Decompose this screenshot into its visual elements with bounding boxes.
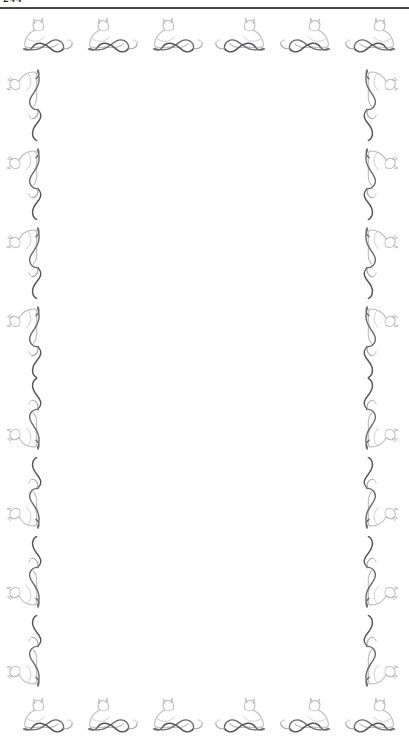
cat-ornament-icon <box>79 694 144 738</box>
page-body <box>56 64 353 690</box>
cat-ornament-icon <box>357 141 403 220</box>
right-border <box>357 62 407 694</box>
cat-ornament-icon <box>357 615 403 694</box>
cat-ornament-icon <box>2 141 48 220</box>
page-number: 244 <box>3 0 23 4</box>
cat-ornament-icon <box>357 536 403 615</box>
cat-ornament-icon <box>144 694 209 738</box>
cat-ornament-icon <box>2 220 48 299</box>
cat-ornament-icon <box>339 694 404 738</box>
cat-ornament-icon <box>14 694 79 738</box>
top-border <box>0 14 409 60</box>
cat-ornament-icon <box>274 694 339 738</box>
header-rule <box>0 7 409 9</box>
cat-ornament-icon <box>2 299 48 378</box>
cat-ornament-icon <box>2 378 48 457</box>
cat-ornament-icon <box>357 220 403 299</box>
cat-ornament-icon <box>2 62 48 141</box>
page-header: 244 <box>0 0 409 11</box>
cat-ornament-icon <box>2 457 48 536</box>
cat-ornament-icon <box>274 14 339 58</box>
cat-ornament-icon <box>209 14 274 58</box>
cat-ornament-icon <box>144 14 209 58</box>
cat-ornament-icon <box>357 378 403 457</box>
document-page: 244 <box>0 0 409 742</box>
cat-ornament-icon <box>357 457 403 536</box>
cat-ornament-icon <box>2 615 48 694</box>
cat-ornament-icon <box>357 62 403 141</box>
cat-ornament-icon <box>339 14 404 58</box>
cat-ornament-icon <box>357 299 403 378</box>
cat-ornament-icon <box>209 694 274 738</box>
cat-ornament-icon <box>14 14 79 58</box>
cat-ornament-icon <box>2 536 48 615</box>
left-border <box>2 62 52 694</box>
cat-ornament-icon <box>79 14 144 58</box>
bottom-border <box>0 694 409 740</box>
